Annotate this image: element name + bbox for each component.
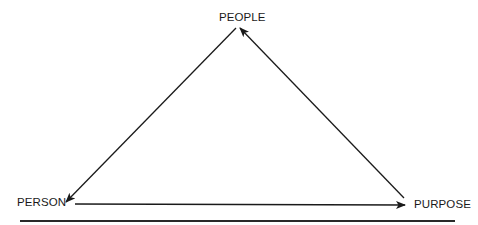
node-people-label: PEOPLE (219, 12, 266, 24)
edge-purpose-to-people (240, 28, 404, 198)
bottom-divider (20, 220, 455, 222)
edge-people-to-person (66, 28, 236, 202)
node-person-label: PERSON (17, 197, 66, 209)
triangle-diagram: PEOPLE PERSON PURPOSE (0, 0, 478, 225)
node-purpose-label: PURPOSE (414, 199, 471, 211)
edge-person-to-purpose (75, 204, 405, 205)
diagram-arrows (0, 0, 478, 225)
